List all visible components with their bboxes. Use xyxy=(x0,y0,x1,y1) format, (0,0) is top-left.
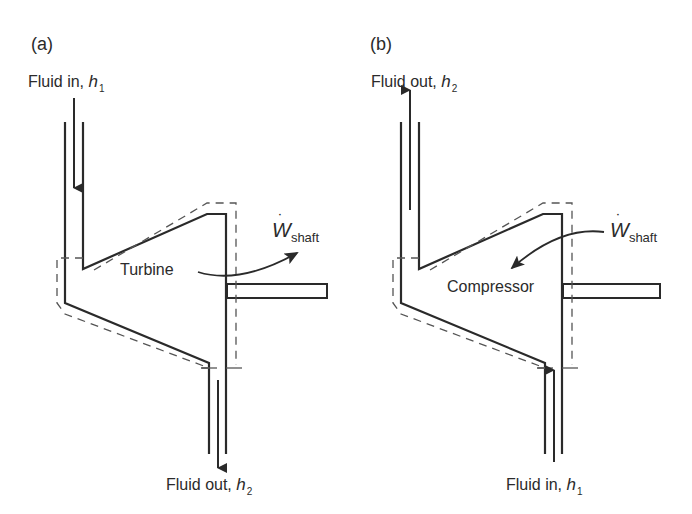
turbine-outlet-text: Fluid out, xyxy=(166,476,236,493)
compressor-shaft-work-label: W˙shaft xyxy=(610,219,657,242)
compressor-inlet-enthalpy-subscript: 1 xyxy=(577,486,583,497)
turbine-outlet-enthalpy-subscript: 2 xyxy=(247,486,253,497)
time-derivative-dot: ˙ xyxy=(616,212,621,230)
turbine-shaft xyxy=(227,284,327,298)
panel-b-tag: (b) xyxy=(370,35,392,53)
turbine-outlet-enthalpy-symbol: h xyxy=(236,475,245,494)
turbine-inlet-enthalpy-symbol: h xyxy=(88,72,97,91)
turbine-label: Turbine xyxy=(119,261,175,279)
turbine-inlet-label: Fluid in, h1 xyxy=(28,73,105,93)
work-rate-symbol: W˙ xyxy=(272,219,291,241)
turbine-inlet-text: Fluid in, xyxy=(28,73,88,90)
compressor-outlet-enthalpy-symbol: h xyxy=(441,72,450,91)
turbine-body xyxy=(65,122,226,454)
compressor-work-in-arrow xyxy=(512,231,604,268)
turbine-control-volume xyxy=(57,203,242,368)
compressor-label: Compressor xyxy=(446,278,535,296)
turbine-outlet-label: Fluid out, h2 xyxy=(166,476,252,496)
compressor-inlet-label: Fluid in, h1 xyxy=(506,476,583,496)
work-rate-symbol: W˙ xyxy=(610,219,629,241)
work-subscript: shaft xyxy=(629,230,657,245)
panel-a-turbine xyxy=(57,98,327,468)
compressor-outlet-text: Fluid out, xyxy=(371,73,441,90)
time-derivative-dot: ˙ xyxy=(278,212,283,230)
panel-a-tag: (a) xyxy=(31,35,53,53)
diagram-canvas: (a) Fluid in, h1 Fluid out, h2 Turbine W… xyxy=(0,0,692,514)
compressor-inlet-enthalpy-symbol: h xyxy=(566,475,575,494)
compressor-shaft xyxy=(563,284,660,298)
compressor-inlet-text: Fluid in, xyxy=(506,476,566,493)
turbine-work-out-arrow xyxy=(198,253,297,276)
work-subscript: shaft xyxy=(291,230,319,245)
turbine-shaft-work-label: W˙shaft xyxy=(272,219,319,242)
compressor-outlet-enthalpy-subscript: 2 xyxy=(452,83,458,94)
turbine-inlet-enthalpy-subscript: 1 xyxy=(99,83,105,94)
panel-b-compressor xyxy=(393,90,660,462)
compressor-outlet-label: Fluid out, h2 xyxy=(371,73,457,93)
